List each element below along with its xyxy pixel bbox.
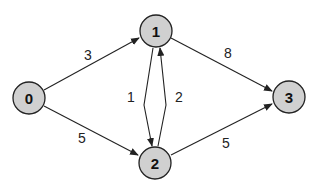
edge-2-1: 2 — [158, 48, 183, 146]
node-1: 1 — [140, 15, 172, 47]
node-3: 3 — [273, 81, 305, 113]
edge-weight: 5 — [222, 135, 230, 151]
edge-0-2: 5 — [44, 106, 138, 155]
edge-0-1: 3 — [44, 38, 139, 90]
edge-weight: 5 — [78, 130, 86, 146]
edge-1-2: 1 — [127, 48, 153, 146]
node-label: 1 — [152, 23, 160, 40]
node-label: 2 — [151, 155, 159, 172]
edge-weight: 3 — [84, 47, 92, 63]
node-label: 3 — [285, 89, 293, 106]
edge-weight: 8 — [224, 45, 232, 61]
edge-weight: 2 — [175, 89, 183, 105]
node-2: 2 — [139, 147, 171, 179]
graph-diagram: 3 5 1 2 8 5 0 1 2 3 — [0, 0, 317, 190]
edge-weight: 1 — [127, 89, 135, 105]
node-0: 0 — [13, 82, 45, 114]
node-label: 0 — [25, 90, 33, 107]
edge-1-3: 8 — [171, 38, 272, 91]
edge-2-3: 5 — [171, 104, 272, 155]
